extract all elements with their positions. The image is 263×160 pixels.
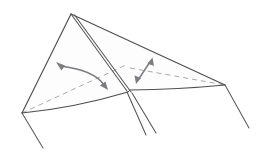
tent-diagram-svg: Tent canopy adjustment diagram: [0, 0, 263, 160]
tent-diagram-container: Tent canopy adjustment diagram two-panel…: [0, 0, 263, 160]
